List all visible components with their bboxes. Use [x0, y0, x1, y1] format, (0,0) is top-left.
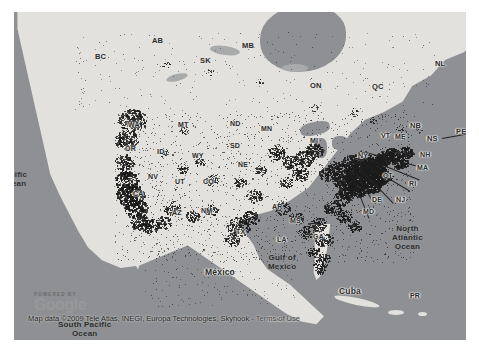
- state-label-la: LA: [277, 236, 287, 243]
- state-label-mn: MN: [261, 125, 272, 132]
- screenshot-root: BCABSKMBONQCNLNBNSPEWAORMTIDWYNDSDMNNENV…: [0, 0, 479, 357]
- province-label-pe: PE: [456, 128, 466, 136]
- state-label-sd: SD: [230, 142, 240, 149]
- ocean-label-pacific-ocean: PacificOcean: [14, 170, 27, 188]
- state-label-ct: CT: [383, 172, 393, 179]
- state-label-ut: UT: [175, 178, 185, 185]
- state-label-ar: AR: [272, 203, 283, 210]
- state-label-nv: NV: [148, 173, 158, 180]
- state-label-ne: NE: [238, 161, 248, 168]
- province-label-ab: AB: [152, 37, 163, 45]
- state-label-pr: PR: [410, 292, 420, 299]
- ocean-label-north-atlantic-ocean: NorthAtlanticOcean: [392, 224, 423, 252]
- state-label-me: ME: [395, 133, 406, 140]
- state-label-vt: VT: [381, 132, 390, 139]
- country-label-mexico: México: [205, 268, 235, 277]
- country-label-cuba: Cuba: [339, 287, 361, 296]
- province-label-nl: NL: [435, 60, 445, 68]
- state-label-ca: CA: [133, 190, 144, 197]
- province-label-bc: BC: [95, 53, 106, 61]
- map-viewport[interactable]: BCABSKMBONQCNLNBNSPEWAORMTIDWYNDSDMNNENV…: [14, 12, 466, 340]
- province-label-qc: QC: [372, 83, 384, 91]
- inland-lake-east: [282, 64, 308, 72]
- state-label-nj: NJ: [396, 196, 405, 203]
- lake-huron: [332, 136, 348, 150]
- province-label-nb: NB: [410, 122, 421, 130]
- province-label-on: ON: [310, 82, 322, 90]
- state-label-nh: NH: [420, 151, 431, 158]
- state-label-ri: RI: [409, 180, 416, 187]
- state-label-mt: MT: [178, 121, 189, 128]
- state-label-or: OR: [125, 145, 136, 152]
- state-label-de: DE: [372, 196, 382, 203]
- state-label-tx: TX: [236, 228, 245, 235]
- state-label-co: CO: [203, 178, 214, 185]
- state-label-id: ID: [157, 148, 164, 155]
- state-label-md: MD: [363, 208, 374, 215]
- state-label-ga: GA: [313, 233, 324, 240]
- state-label-ma: MA: [417, 164, 428, 171]
- google-logo: POWERED BY Google: [34, 292, 86, 312]
- province-label-mb: MB: [242, 42, 254, 50]
- state-label-ms: MS: [290, 217, 301, 224]
- state-label-mi: MI: [310, 137, 318, 144]
- map-data-credit: Map data ©2009 Tele Atlas, INEGI, Europa…: [28, 314, 249, 323]
- terms-of-use-link[interactable]: Terms of Use: [256, 314, 300, 323]
- state-label-wy: WY: [192, 152, 204, 159]
- ocean-label-gulf-of-mexico: Gulf ofMexico: [268, 253, 296, 271]
- map-attribution-bar: Map data ©2009 Tele Atlas, INEGI, Europa…: [28, 314, 466, 323]
- state-label-ny: NY: [358, 152, 368, 159]
- province-label-sk: SK: [200, 57, 211, 65]
- state-label-wa: WA: [128, 121, 140, 128]
- state-label-az: AZ: [172, 209, 182, 216]
- state-label-nd: ND: [230, 120, 241, 127]
- province-label-ns: NS: [427, 135, 438, 143]
- google-wordmark: Google: [34, 297, 86, 312]
- state-label-nm: NM: [201, 207, 212, 214]
